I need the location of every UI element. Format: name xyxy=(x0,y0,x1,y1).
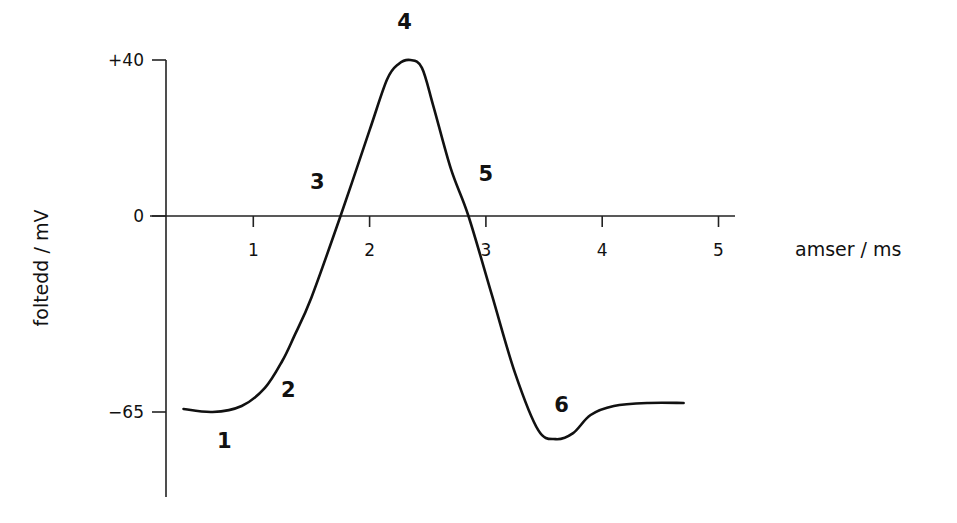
x-axis-label: amser / ms xyxy=(795,238,901,260)
annotation-label-1: 1 xyxy=(217,429,232,453)
annotation-label-2: 2 xyxy=(281,378,296,402)
y-tick-label: +40 xyxy=(108,50,144,70)
y-ticks: +400−65 xyxy=(108,50,166,422)
annotation-label-3: 3 xyxy=(310,170,325,194)
axes xyxy=(150,60,735,497)
y-axis-label: foltedd / mV xyxy=(30,210,52,327)
annotation-label-4: 4 xyxy=(397,10,412,34)
annotation-label-5: 5 xyxy=(479,162,494,186)
action-potential-chart: 12345 +400−65 123456 amser / ms foltedd … xyxy=(0,0,957,523)
x-tick-label: 2 xyxy=(364,240,375,260)
x-tick-label: 4 xyxy=(597,240,608,260)
y-tick-label: 0 xyxy=(133,206,144,226)
y-tick-label: −65 xyxy=(108,402,144,422)
annotations: 123456 xyxy=(217,10,569,453)
x-tick-label: 1 xyxy=(248,240,259,260)
x-ticks: 12345 xyxy=(248,216,724,260)
x-tick-label: 5 xyxy=(713,240,724,260)
annotation-label-6: 6 xyxy=(554,393,569,417)
